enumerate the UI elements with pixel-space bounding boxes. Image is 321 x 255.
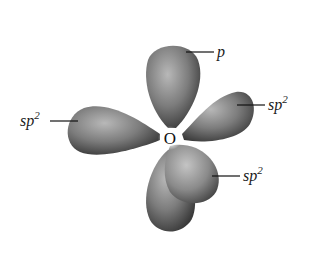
label-sp2-lower: sp2 xyxy=(243,164,263,185)
sp2-lobe-left xyxy=(68,106,160,154)
sp2-lobe-lower-front xyxy=(165,145,219,204)
orbital-diagram: O p sp2 sp2 sp2 xyxy=(0,0,321,255)
label-sp2-right: sp2 xyxy=(268,93,288,114)
label-sp2-left: sp2 xyxy=(20,109,40,130)
p-lobe-upper xyxy=(146,46,200,128)
central-atom-label: O xyxy=(164,129,176,148)
label-p: p xyxy=(216,43,225,61)
